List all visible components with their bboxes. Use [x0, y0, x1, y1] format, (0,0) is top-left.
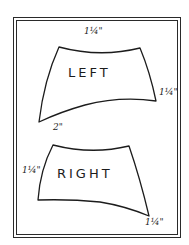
left-piece-outline: [39, 47, 156, 122]
right-piece-label: RIGHT: [57, 167, 113, 180]
left-piece-label: LEFT: [68, 66, 111, 79]
left-piece-top-dimension: 1¼": [84, 27, 103, 36]
pattern-shapes: [0, 0, 189, 245]
left-piece-right-dimension: 1¼": [159, 88, 178, 97]
right-piece-left-dimension: 1¼": [22, 166, 41, 175]
right-piece-bottom-right-dimension: 1¼": [145, 218, 164, 227]
left-piece-bottom-dimension: 2": [53, 123, 63, 132]
pattern-diagram: LEFT 1¼" 1¼" 2" RIGHT 1¼" 1¼": [0, 0, 189, 245]
